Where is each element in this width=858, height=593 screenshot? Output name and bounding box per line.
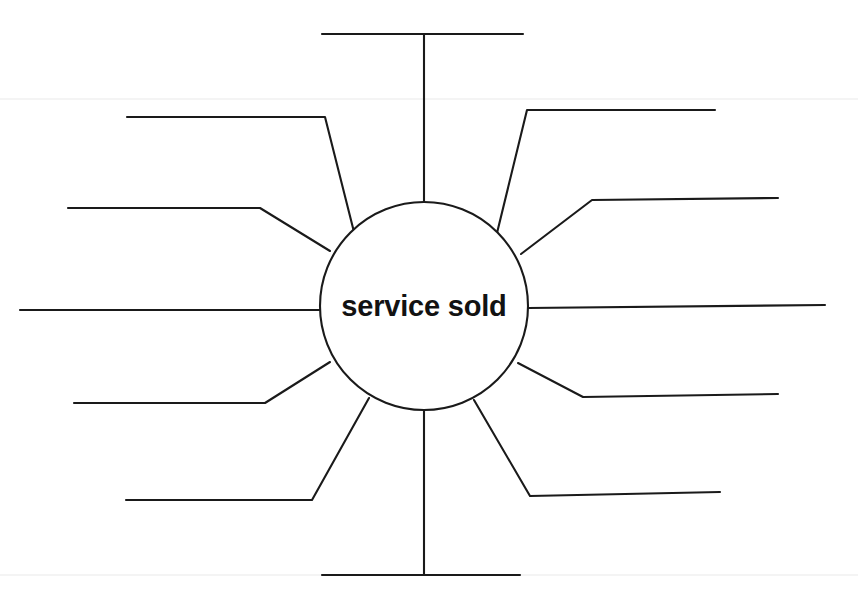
spoke-top[interactable]: [322, 34, 523, 202]
spider-diagram: service sold: [0, 0, 858, 593]
spoke-right-upper-mid[interactable]: [521, 198, 778, 254]
spoke-upper-left[interactable]: [127, 117, 354, 232]
spoke-lower-left[interactable]: [126, 398, 369, 500]
hub-label: service sold: [341, 290, 506, 322]
spoke-right[interactable]: [528, 305, 825, 308]
spoke-left-lower-mid[interactable]: [74, 362, 330, 403]
spoke-right-lower-mid[interactable]: [518, 363, 778, 397]
spoke-left-upper-mid[interactable]: [68, 208, 330, 251]
spoke-lower-right[interactable]: [474, 400, 720, 496]
diagram-canvas: service sold: [0, 0, 858, 593]
spoke-bottom[interactable]: [322, 410, 520, 575]
spoke-upper-right[interactable]: [497, 110, 715, 233]
